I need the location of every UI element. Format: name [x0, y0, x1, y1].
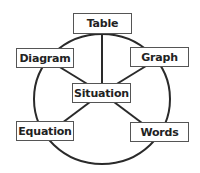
node-label-words: Words	[140, 126, 178, 139]
node-label-diagram: Diagram	[19, 52, 70, 65]
node-label-equation: Equation	[18, 125, 71, 138]
node-label-situation: Situation	[74, 87, 129, 100]
node-graph: Graph	[130, 47, 189, 67]
node-label-table: Table	[87, 17, 119, 30]
node-situation: Situation	[72, 83, 131, 103]
node-label-graph: Graph	[141, 51, 178, 64]
node-table: Table	[73, 13, 132, 34]
node-equation: Equation	[16, 121, 74, 141]
node-words: Words	[130, 122, 189, 142]
node-diagram: Diagram	[16, 48, 74, 68]
